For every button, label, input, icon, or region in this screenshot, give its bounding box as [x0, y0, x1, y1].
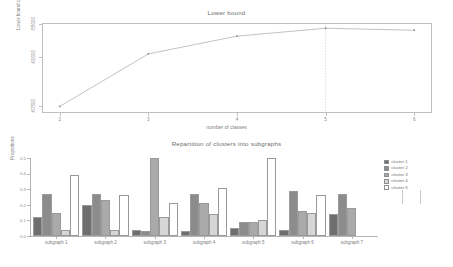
- y-tick-label: 0.4: [10, 171, 26, 176]
- bar: [199, 203, 208, 236]
- x-tick-label: subgraph 1: [34, 240, 78, 245]
- y-tick-label: 0.5: [10, 156, 26, 161]
- bar: [267, 158, 276, 236]
- lower-bound-chart-panel: Lower bound Lower bound criterion 23456 …: [0, 0, 453, 136]
- bar-group: [230, 158, 276, 236]
- bar: [347, 208, 356, 236]
- x-tick-label: 2: [56, 117, 64, 122]
- bar-group: [279, 158, 325, 236]
- x-tick-mark: [253, 236, 254, 239]
- lower-bound-x-axis-label: number of classes: [0, 124, 453, 130]
- data-point-marker: [236, 35, 238, 37]
- bar: [61, 230, 70, 236]
- repartition-bars: [30, 158, 370, 236]
- bar: [110, 230, 119, 236]
- bar: [230, 228, 239, 236]
- x-tick-mark: [414, 113, 415, 116]
- bar: [82, 205, 91, 236]
- bar: [249, 222, 258, 236]
- x-tick-label: 6: [410, 117, 418, 122]
- legend-swatch: [384, 166, 389, 171]
- bar: [132, 230, 141, 236]
- x-tick-label: 4: [233, 117, 241, 122]
- bar: [289, 191, 298, 236]
- x-tick-label: subgraph 2: [83, 240, 127, 245]
- cluster-legend: cluster 1cluster 2cluster 3cluster 4clus…: [384, 159, 446, 191]
- y-tick-mark: [27, 236, 30, 237]
- bar: [279, 230, 288, 236]
- bar: [307, 213, 316, 236]
- x-tick-mark: [155, 236, 156, 239]
- data-point-marker: [325, 27, 327, 29]
- bar: [92, 194, 101, 236]
- x-tick-mark: [105, 236, 106, 239]
- x-tick-mark: [60, 113, 61, 116]
- y-tick-label: 0.1: [10, 218, 26, 223]
- legend-swatch: [384, 173, 389, 178]
- bar: [169, 203, 178, 236]
- bar-group: [329, 158, 375, 236]
- x-tick-label: subgraph 3: [133, 240, 177, 245]
- y-tick-mark: [39, 57, 42, 58]
- y-tick-mark: [39, 106, 42, 107]
- legend-item: cluster 5: [384, 185, 446, 191]
- x-tick-mark: [237, 113, 238, 116]
- bar-group: [181, 158, 227, 236]
- bar: [209, 214, 218, 236]
- repartition-title: Repartition of clusters into subgraphs: [0, 140, 453, 147]
- y-tick-label: 0.2: [10, 203, 26, 208]
- bar-group: [132, 158, 178, 236]
- bar: [258, 220, 267, 236]
- x-tick-label: 5: [322, 117, 330, 122]
- x-tick-label: 3: [144, 117, 152, 122]
- y-tick-mark: [39, 24, 42, 25]
- bar: [316, 195, 325, 236]
- bar: [159, 217, 168, 236]
- bar: [119, 195, 128, 236]
- legend-divider-line-right: [420, 190, 421, 204]
- x-tick-label: subgraph 6: [281, 240, 325, 245]
- x-tick-mark: [204, 236, 205, 239]
- x-tick-mark: [56, 236, 57, 239]
- bar: [101, 200, 110, 236]
- legend-divider-line-left: [402, 190, 403, 204]
- y-tick-label: -67500: [31, 99, 36, 113]
- legend-label: cluster 5: [391, 185, 408, 191]
- bar: [338, 194, 347, 236]
- bar-group: [33, 158, 79, 236]
- bar: [190, 194, 199, 236]
- x-tick-mark: [352, 236, 353, 239]
- y-tick-label: -55000: [31, 17, 36, 31]
- x-tick-mark: [303, 236, 304, 239]
- legend-swatch: [384, 179, 389, 184]
- bar: [42, 194, 51, 236]
- x-tick-label: subgraph 4: [182, 240, 226, 245]
- bar: [52, 213, 61, 236]
- repartition-y-axis-label: Proportions: [10, 118, 15, 178]
- y-tick-label: -60000: [31, 50, 36, 64]
- y-tick-label: 0.3: [10, 187, 26, 192]
- x-tick-label: subgraph 7: [330, 240, 374, 245]
- legend-swatch: [384, 185, 389, 190]
- bar: [33, 217, 42, 236]
- x-tick-mark: [148, 113, 149, 116]
- bar: [298, 211, 307, 236]
- data-point-marker: [413, 29, 415, 31]
- bar-group: [82, 158, 128, 236]
- bar: [181, 231, 190, 236]
- x-tick-label: subgraph 5: [231, 240, 275, 245]
- bar: [218, 188, 227, 236]
- x-tick-mark: [326, 113, 327, 116]
- bar: [141, 231, 150, 236]
- data-point-marker: [147, 53, 149, 55]
- bar: [239, 222, 248, 236]
- bar: [329, 214, 338, 236]
- lower-bound-series-line: [60, 28, 415, 106]
- bar: [70, 175, 79, 236]
- bar: [150, 158, 159, 236]
- legend-swatch: [384, 160, 389, 165]
- y-tick-label: 0.0: [10, 234, 26, 239]
- data-point-marker: [59, 106, 61, 108]
- lower-bound-line-svg: [0, 0, 453, 136]
